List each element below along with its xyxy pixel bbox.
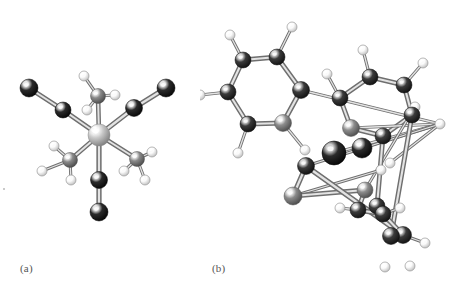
- atom-specular-highlight: [437, 121, 440, 123]
- atom-O2: [157, 79, 175, 97]
- atom-Ha5: [300, 145, 310, 155]
- atom-Ca3: [220, 84, 236, 100]
- atom-specular-highlight: [94, 92, 98, 95]
- atom-O1: [20, 79, 38, 97]
- atom-specular-highlight: [324, 71, 327, 73]
- atom-C3: [91, 172, 108, 189]
- atom-L3: [284, 187, 302, 205]
- atom-L1: [352, 138, 372, 158]
- atom-specular-highlight: [68, 177, 71, 179]
- atom-O3: [90, 203, 108, 221]
- atom-H8: [66, 175, 76, 185]
- atom-specular-highlight: [397, 205, 400, 207]
- atom-H2: [110, 90, 120, 100]
- atom-specular-highlight: [346, 123, 350, 126]
- atom-L2: [298, 158, 315, 175]
- atom-specular-highlight: [412, 104, 415, 106]
- atom-specular-highlight: [289, 24, 292, 26]
- atom-specular-highlight: [244, 120, 248, 123]
- atom-Cc2: [350, 202, 366, 218]
- atom-specular-highlight: [407, 263, 410, 265]
- atom-specular-highlight: [302, 147, 305, 149]
- atom-H4: [37, 166, 47, 176]
- atom-specular-highlight: [51, 143, 54, 145]
- atom-specular-highlight: [337, 205, 340, 207]
- atom-Hc6: [405, 261, 415, 271]
- atom-Cb6: [375, 128, 391, 144]
- atom-Ha2: [225, 30, 235, 40]
- figure-root: (a) (b): [0, 0, 460, 299]
- atom-Hc1: [376, 165, 386, 175]
- molecule-b-canvas: [200, 0, 460, 285]
- atom-Ca4: [240, 116, 256, 132]
- atom-specular-highlight: [39, 168, 42, 170]
- atom-specular-highlight: [94, 175, 98, 178]
- atom-Hb4: [418, 58, 428, 68]
- atom-specular-highlight: [408, 111, 412, 114]
- atom-H7: [82, 105, 92, 115]
- atom-specular-highlight: [227, 32, 230, 34]
- atom-H9: [140, 175, 150, 185]
- atom-specular-highlight: [386, 231, 390, 234]
- atom-specular-highlight: [420, 60, 423, 62]
- atom-C1: [55, 102, 71, 118]
- panel-b-structure: [200, 0, 460, 299]
- atom-specular-highlight: [133, 155, 137, 158]
- atom-specular-highlight: [366, 73, 370, 76]
- atom-specular-highlight: [382, 264, 385, 266]
- atom-Hb6: [385, 158, 395, 168]
- atom-Cb2: [332, 90, 348, 106]
- atom-Ha4: [233, 148, 243, 158]
- atom-H3: [49, 141, 59, 151]
- atom-specular-highlight: [356, 142, 361, 146]
- atom-specular-highlight: [327, 146, 333, 151]
- atom-Hb3: [358, 45, 368, 55]
- atom-Hb5: [435, 119, 445, 129]
- atom-Ca1: [269, 49, 285, 65]
- atom-specular-highlight: [239, 56, 243, 59]
- atom-specular-highlight: [278, 118, 282, 121]
- atom-Hc3: [335, 203, 345, 213]
- atom-Ha1: [287, 22, 297, 32]
- atom-specular-highlight: [422, 240, 425, 242]
- atom-Ca5: [275, 115, 292, 132]
- atom-H1: [79, 71, 89, 81]
- atom-specular-highlight: [354, 206, 358, 209]
- molecule-a-canvas: [0, 0, 210, 260]
- atom-specular-highlight: [379, 132, 383, 135]
- atom-specular-highlight: [224, 88, 228, 91]
- atom-specular-highlight: [59, 106, 63, 109]
- atom-specular-highlight: [296, 85, 300, 88]
- atom-Ha3: [200, 90, 205, 100]
- atom-specular-highlight: [81, 73, 84, 75]
- atom-Ca2: [235, 52, 251, 68]
- atom-specular-highlight: [142, 177, 145, 179]
- atom-specular-highlight: [273, 53, 277, 56]
- atom-C6: [130, 152, 145, 167]
- atom-H6: [119, 166, 129, 176]
- atom-Hc4: [395, 203, 405, 213]
- atom-specular-highlight: [361, 186, 365, 189]
- atom-specular-highlight: [129, 103, 133, 106]
- panel-label-b: (b): [212, 262, 225, 274]
- atom-specular-highlight: [66, 156, 70, 159]
- atom-Ca6: [293, 82, 310, 99]
- atom-C2: [126, 100, 143, 117]
- atom-Hb2: [322, 69, 332, 79]
- atom-specular-highlight: [387, 160, 390, 162]
- atom-specular-highlight: [94, 207, 99, 211]
- atom-specular-highlight: [373, 202, 377, 205]
- atom-Cc3: [375, 206, 391, 222]
- atom-M: [322, 141, 346, 165]
- atom-specular-highlight: [336, 94, 340, 97]
- atom-Cc1: [357, 182, 373, 198]
- atom-specular-highlight: [378, 167, 381, 169]
- atom-specular-highlight: [121, 168, 124, 170]
- atom-C4: [91, 89, 106, 104]
- atom-specular-highlight: [360, 47, 363, 49]
- atom-specular-highlight: [112, 92, 115, 94]
- atom-specular-highlight: [400, 81, 404, 84]
- atom-specular-highlight: [93, 129, 99, 133]
- atom-H5: [147, 147, 157, 157]
- panel-label-a: (a): [20, 262, 33, 274]
